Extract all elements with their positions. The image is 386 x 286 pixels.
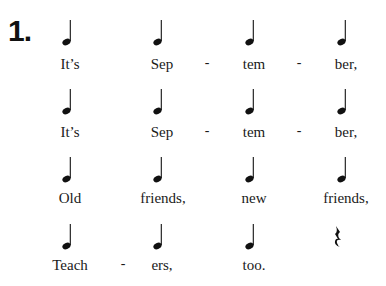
lyric: tem [243,124,266,141]
lyric: It’s [60,56,79,73]
lyric: tem [243,56,266,73]
quarter-note-icon [244,224,256,250]
quarter-note-icon [152,224,164,250]
lyric: Teach [52,257,88,274]
lyric: ber, [335,56,357,73]
quarter-note-icon [61,157,73,183]
hyphen: - [205,55,210,71]
quarter-note-icon [152,157,164,183]
lyric: too. [243,257,266,274]
quarter-note-icon [244,89,256,115]
quarter-note-icon [152,20,164,46]
quarter-note-icon [61,89,73,115]
hyphen: - [297,55,302,71]
lyric: It’s [60,124,79,141]
lyric: Sep [151,124,174,141]
quarter-note-icon [61,20,73,46]
hyphen: - [205,123,210,139]
quarter-note-icon [336,20,348,46]
exercise-number: 1. [8,14,31,48]
quarter-note-icon [61,224,73,250]
quarter-rest-icon [333,226,343,248]
quarter-note-icon [152,89,164,115]
lyric: friends, [140,190,185,207]
quarter-note-icon [336,89,348,115]
quarter-note-icon [244,20,256,46]
lyric: Old [59,190,82,207]
quarter-note-icon [244,157,256,183]
quarter-note-icon [336,157,348,183]
lyric: ber, [335,124,357,141]
lyric: Sep [151,56,174,73]
lyric: friends, [323,190,368,207]
hyphen: - [297,123,302,139]
lyric: ers, [151,257,172,274]
hyphen: - [121,256,126,272]
lyric: new [242,190,267,207]
